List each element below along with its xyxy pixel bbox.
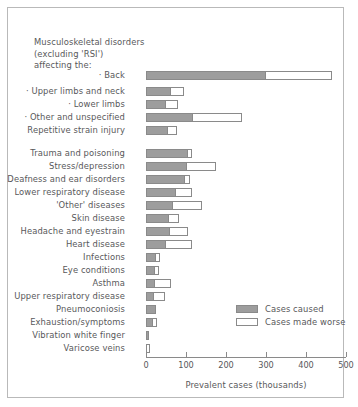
bar-segment-caused (146, 100, 166, 109)
legend-swatch-caused-icon (236, 305, 258, 313)
table-row: Upper respiratory disease (8, 292, 343, 302)
bar-segment-caused (146, 126, 168, 135)
stacked-bar (146, 214, 180, 223)
x-axis-tick-label: 100 (166, 360, 206, 370)
bar-row-label: 'Other' diseases (56, 200, 125, 210)
bar-segment-caused (146, 240, 166, 249)
stacked-bar (146, 253, 161, 262)
bar-segment-worse (170, 87, 184, 96)
table-row: Trauma and poisoning (8, 149, 343, 159)
x-axis-tick-label: 200 (206, 360, 246, 370)
stacked-bar (146, 292, 166, 301)
bar-segment-caused (146, 149, 188, 158)
x-axis-title: Prevalent cases (thousands) (146, 380, 346, 390)
bar-segment-worse (168, 214, 179, 223)
table-row: Heart disease (8, 240, 343, 250)
stacked-bar (146, 305, 156, 314)
bar-segment-worse (152, 318, 157, 327)
bar-row-label: Upper respiratory disease (14, 291, 125, 301)
table-row: Vibration white finger (8, 331, 343, 341)
bar-row-label: Varicose veins (64, 343, 125, 353)
x-axis-tick (306, 352, 307, 357)
table-row: Infections (8, 253, 343, 263)
stacked-bar (146, 279, 172, 288)
bar-segment-worse (187, 149, 192, 158)
table-row: Repetitive strain injury (8, 126, 343, 136)
bar-segment-caused (146, 227, 170, 236)
bar-segment-caused (146, 87, 171, 96)
chart-frame: Musculoskeletal disorders (excluding 'RS… (7, 7, 344, 398)
table-row: 'Other' diseases (8, 201, 343, 211)
x-axis-tick-label: 500 (326, 360, 358, 370)
table-row: Deafness and ear disorders (8, 175, 343, 185)
bar-row-label: · Back (99, 70, 125, 80)
bar-segment-caused (146, 201, 173, 210)
table-row: Eye conditions (8, 266, 343, 276)
stacked-bar (146, 227, 189, 236)
table-row: Headache and eyestrain (8, 227, 343, 237)
bar-row-label: Vibration white finger (32, 330, 125, 340)
bar-segment-worse (175, 188, 192, 197)
stacked-bar (146, 240, 193, 249)
stacked-bar (146, 100, 179, 109)
bar-row-label: Lower respiratory disease (14, 187, 125, 197)
bar-row-label: Deafness and ear disorders (7, 174, 125, 184)
bar-segment-caused (146, 214, 169, 223)
table-row: · Back (8, 71, 343, 81)
x-axis-tick (346, 352, 347, 357)
stacked-bar (146, 266, 160, 275)
legend-swatch-worse-icon (236, 318, 258, 326)
x-axis-tick-label: 0 (126, 360, 166, 370)
bar-segment-worse (153, 292, 165, 301)
bar-segment-worse (154, 279, 171, 288)
bar-segment-worse (165, 100, 178, 109)
table-row: · Upper limbs and neck (8, 87, 343, 97)
bar-row-label: Trauma and poisoning (30, 148, 125, 158)
bar-row-label: Headache and eyestrain (21, 226, 126, 236)
table-row: · Other and unspecified (8, 113, 343, 123)
table-row: · Lower limbs (8, 100, 343, 110)
x-axis-tick (146, 352, 147, 357)
x-axis-tick (226, 352, 227, 357)
x-axis-line (146, 357, 346, 358)
table-row: Stress/depression (8, 162, 343, 172)
x-axis-tick-label: 300 (246, 360, 286, 370)
stacked-bar (146, 87, 185, 96)
bar-segment-worse (172, 201, 202, 210)
bar-segment-worse (192, 113, 242, 122)
table-row: Varicose veins (8, 344, 343, 354)
legend-label-caused: Cases caused (265, 304, 324, 314)
stacked-bar (146, 201, 203, 210)
chart-plot-area: Musculoskeletal disorders (excluding 'RS… (8, 8, 343, 397)
bar-row-label: · Lower limbs (68, 99, 125, 109)
bar-row-label: Skin disease (72, 213, 125, 223)
x-axis-tick-label: 400 (286, 360, 326, 370)
bar-segment-caused (146, 331, 149, 340)
stacked-bar (146, 175, 191, 184)
table-row: Skin disease (8, 214, 343, 224)
bar-segment-worse (155, 253, 160, 262)
x-axis-tick (266, 352, 267, 357)
stacked-bar (146, 149, 193, 158)
bar-row-label: Asthma (92, 278, 125, 288)
bar-row-label: Eye conditions (62, 265, 125, 275)
stacked-bar (146, 331, 148, 340)
bar-segment-worse (265, 71, 332, 80)
bar-segment-caused (146, 71, 266, 80)
bar-row-label: Heart disease (66, 239, 125, 249)
bar-segment-worse (165, 240, 192, 249)
stacked-bar (146, 318, 158, 327)
table-row: Asthma (8, 279, 343, 289)
bar-segment-caused (146, 175, 185, 184)
bar-row-label: Repetitive strain injury (27, 125, 125, 135)
bar-segment-caused (146, 305, 156, 314)
bar-row-label: Infections (83, 252, 125, 262)
bar-segment-worse (167, 126, 177, 135)
table-row: Lower respiratory disease (8, 188, 343, 198)
stacked-bar (146, 126, 178, 135)
bar-segment-worse (186, 162, 216, 171)
bar-segment-caused (146, 162, 187, 171)
bar-segment-caused (146, 113, 193, 122)
bar-segment-caused (146, 188, 176, 197)
bar-row-label: · Other and unspecified (24, 112, 125, 122)
